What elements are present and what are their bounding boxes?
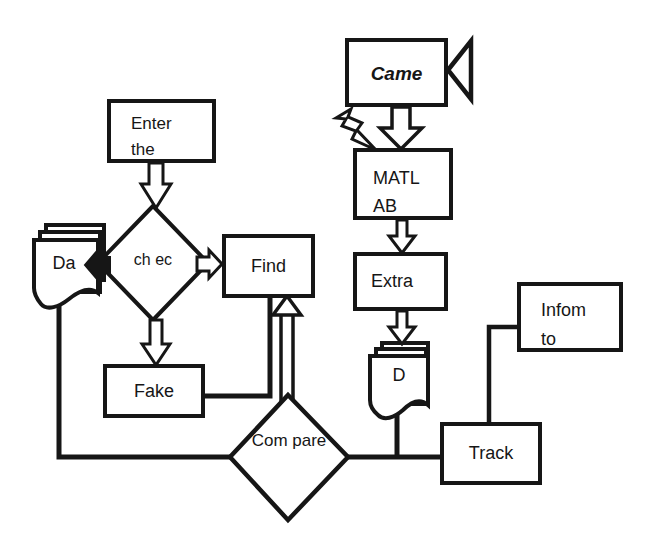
enter-label-line1: Enter [131,111,212,137]
came-box: Came [345,38,448,107]
rail-fake-to-find [205,296,270,396]
find-label: Find [251,256,286,276]
d-document-label: D [377,365,421,389]
arrow-check-to-fake [142,320,170,365]
came-label: Came [371,63,423,84]
enter-label-line2: the [131,137,212,163]
check-label-line1: ch [134,251,151,268]
extra-label: Extra [371,271,413,291]
fake-box: Fake [103,364,205,418]
arrow-compare-to-find-head [273,296,301,315]
inform-label-line1: Infom [541,296,619,325]
matlab-label-line1: MATL [373,164,449,192]
arrow-enter-to-check [141,163,171,208]
d-label-text: D [393,365,406,385]
rail-inform-to-track [489,327,517,424]
camera-icon [448,41,471,99]
check-diamond-label: ch ec [117,246,189,286]
check-label-line2: ec [155,251,172,268]
lightning-bolt-icon [336,109,376,150]
arrow-extra-to-d-document [389,311,415,344]
arrow-came-to-matlab [380,107,422,149]
compare-label-line2: pare [292,431,326,450]
extra-box: Extra [353,252,448,311]
find-box: Find [222,234,315,298]
compare-diamond-label: Com pare [250,428,328,484]
da-label-text: Da [52,253,75,273]
track-label: Track [469,443,513,463]
enter-box: Enter the [107,99,216,163]
flowchart-connectors-layer [0,0,657,550]
inform-label-line2: to [541,325,619,352]
matlab-label-line2: AB [373,192,449,220]
track-box: Track [440,422,542,485]
fake-label: Fake [134,381,174,401]
flowchart-canvas: Enter the Came MATL AB Extra Find Fake I… [0,0,657,550]
arrow-matlab-to-extra [389,220,415,253]
da-document-label: Da [38,253,90,277]
inform-box: Infom to [517,282,623,352]
matlab-box: MATL AB [353,148,453,220]
compare-label-line1: Com [252,431,288,450]
